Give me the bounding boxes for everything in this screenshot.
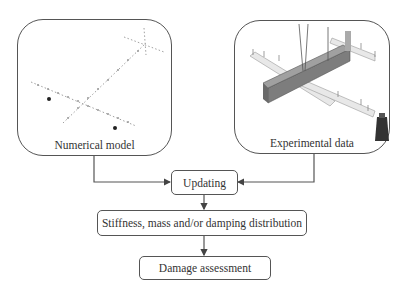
test-rig-illustration [235, 21, 391, 155]
numerical-model-label: Numerical model [18, 139, 171, 151]
damage-assessment-box: Damage assessment [139, 256, 271, 280]
experimental-data-label: Experimental data [235, 137, 389, 149]
experimental-data-box: Experimental data [234, 20, 390, 154]
arrow-experimental-to-updating [238, 153, 314, 182]
updating-box: Updating [171, 170, 238, 195]
numerical-model-box: Numerical model [17, 19, 172, 156]
arrow-numerical-to-updating [94, 155, 170, 182]
fe-mesh-illustration [18, 20, 173, 157]
distribution-box: Stiffness, mass and/or damping distribut… [97, 210, 307, 236]
